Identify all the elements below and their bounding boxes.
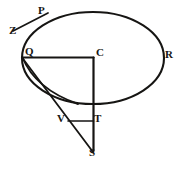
- chord-qs-line: [22, 58, 93, 153]
- point-label-v: V: [57, 113, 65, 124]
- geometric-figure: P Z Q C R V T S: [0, 0, 187, 171]
- point-label-z: Z: [9, 25, 16, 36]
- point-label-c: C: [96, 47, 104, 58]
- point-label-p: P: [38, 5, 45, 16]
- point-label-q: Q: [25, 46, 34, 57]
- point-label-s: S: [89, 147, 95, 158]
- point-label-r: R: [165, 49, 173, 60]
- point-label-t: T: [94, 113, 101, 124]
